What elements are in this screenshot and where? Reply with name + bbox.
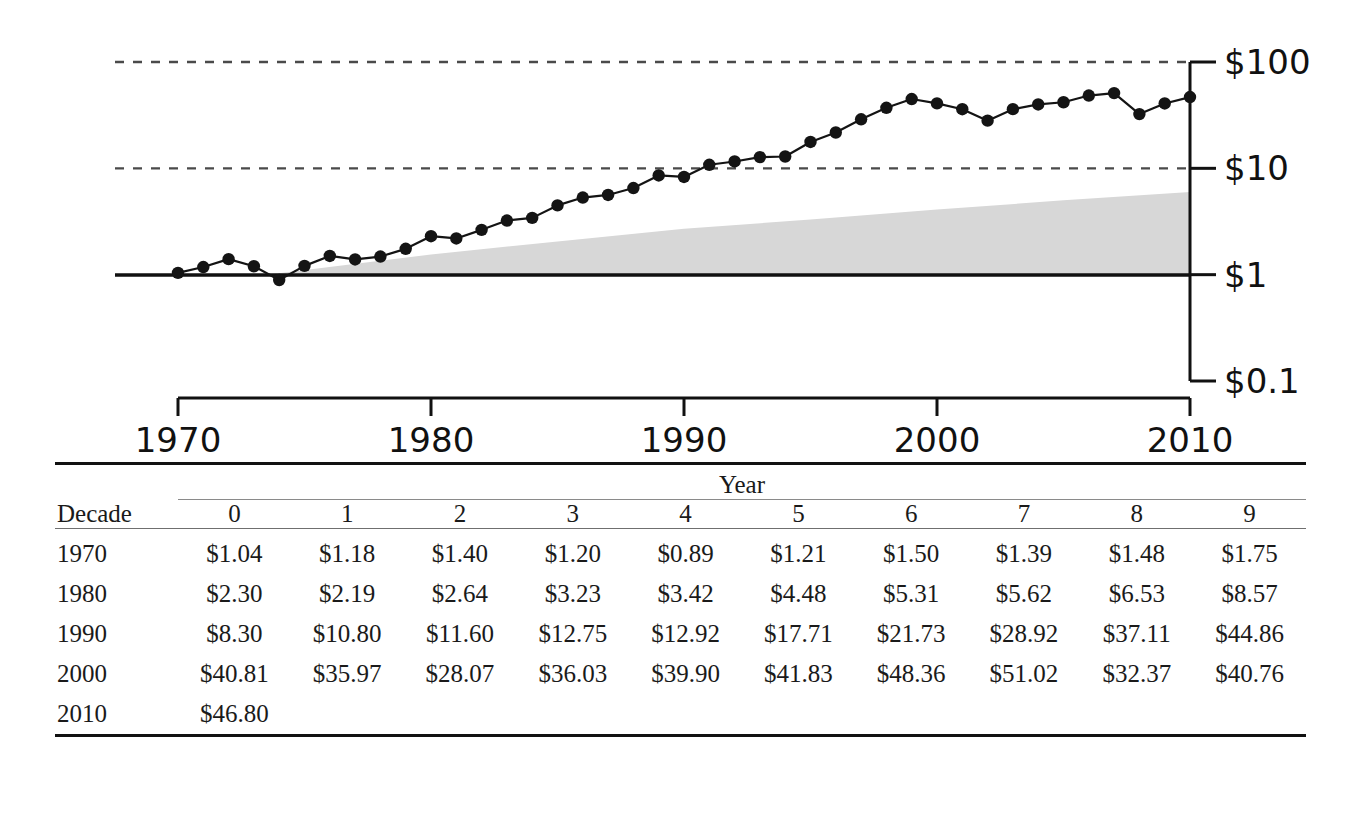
data-point — [400, 243, 412, 255]
decade-cell: 1980 — [55, 574, 178, 614]
price-cell: $39.90 — [629, 654, 742, 694]
shaded-band-area — [267, 192, 1190, 275]
column-header-year-7: 7 — [968, 500, 1081, 529]
data-point — [501, 214, 513, 226]
column-header-year-3: 3 — [516, 500, 629, 529]
y-tick-label-2: $1 — [1224, 255, 1267, 295]
data-point — [653, 169, 665, 181]
data-point — [273, 274, 285, 286]
data-point — [1007, 103, 1019, 115]
column-header-year-2: 2 — [404, 500, 517, 529]
price-cell: $1.18 — [291, 534, 404, 574]
decade-cell: 2010 — [55, 694, 178, 736]
column-header-year-9: 9 — [1193, 500, 1306, 529]
price-cell: $17.71 — [742, 614, 855, 654]
x-tick-label-2: 1990 — [641, 420, 728, 460]
y-tick-label-group: $100$10$1$0.1 — [1224, 42, 1311, 401]
column-header-year-8: 8 — [1080, 500, 1193, 529]
price-cell — [855, 694, 968, 736]
price-cell — [968, 694, 1081, 736]
data-point — [981, 114, 993, 126]
price-cell: $32.37 — [1080, 654, 1193, 694]
price-cell: $46.80 — [178, 694, 291, 736]
table-column-header-row: Decade 0 1 2 3 4 5 6 7 8 9 — [55, 500, 1306, 529]
price-cell — [1193, 694, 1306, 736]
data-point — [754, 151, 766, 163]
price-cell: $1.39 — [968, 534, 1081, 574]
price-cell: $1.04 — [178, 534, 291, 574]
price-cell: $1.40 — [404, 534, 517, 574]
data-point — [425, 230, 437, 242]
price-cell: $4.48 — [742, 574, 855, 614]
price-cell: $12.75 — [516, 614, 629, 654]
price-cell: $2.30 — [178, 574, 291, 614]
data-point — [830, 126, 842, 138]
table-foot — [55, 736, 1306, 744]
price-cell: $8.30 — [178, 614, 291, 654]
table-body: 1970$1.04$1.18$1.40$1.20$0.89$1.21$1.50$… — [55, 534, 1306, 736]
price-cell: $37.11 — [1080, 614, 1193, 654]
price-cell: $10.80 — [291, 614, 404, 654]
data-point — [324, 250, 336, 262]
table-row: 1980$2.30$2.19$2.64$3.23$3.42$4.48$5.31$… — [55, 574, 1306, 614]
table-top-rule — [55, 464, 1306, 472]
data-point — [1108, 87, 1120, 99]
price-cell: $40.76 — [1193, 654, 1306, 694]
price-cell: $41.83 — [742, 654, 855, 694]
y-tick-label-0: $100 — [1224, 42, 1311, 82]
x-tick-label-1: 1980 — [388, 420, 475, 460]
price-cell: $6.53 — [1080, 574, 1193, 614]
data-point — [906, 93, 918, 105]
price-cell: $28.92 — [968, 614, 1081, 654]
data-point — [931, 97, 943, 109]
data-table-container: Year Decade 0 1 2 3 4 5 6 7 8 9 — [55, 462, 1306, 743]
price-cell: $5.62 — [968, 574, 1081, 614]
column-header-year-5: 5 — [742, 500, 855, 529]
price-cell — [404, 694, 517, 736]
data-point — [602, 189, 614, 201]
data-point — [779, 150, 791, 162]
line-chart: $100$10$1$0.1 19701980199020002010 — [0, 0, 1361, 462]
data-point — [577, 191, 589, 203]
x-tick-label-0: 1970 — [135, 420, 222, 460]
data-point — [703, 159, 715, 171]
data-point — [551, 199, 563, 211]
data-point — [526, 212, 538, 224]
figure-page: $100$10$1$0.1 19701980199020002010 — [0, 0, 1361, 814]
price-cell: $12.92 — [629, 614, 742, 654]
price-cell: $1.50 — [855, 534, 968, 574]
price-cell — [742, 694, 855, 736]
price-cell — [1080, 694, 1193, 736]
data-point — [298, 260, 310, 272]
price-cell: $2.19 — [291, 574, 404, 614]
data-point — [248, 260, 260, 272]
table-row: 2000$40.81$35.97$28.07$36.03$39.90$41.83… — [55, 654, 1306, 694]
x-tick-label-group: 19701980199020002010 — [135, 420, 1234, 460]
column-header-year-0: 0 — [178, 500, 291, 529]
column-header-year-1: 1 — [291, 500, 404, 529]
table-row: 2010$46.80 — [55, 694, 1306, 736]
price-cell: $3.23 — [516, 574, 629, 614]
y-tick-label-3: $0.1 — [1224, 361, 1300, 401]
price-cell: $36.03 — [516, 654, 629, 694]
data-point — [1032, 98, 1044, 110]
x-tick-label-3: 2000 — [894, 420, 981, 460]
price-cell — [516, 694, 629, 736]
price-cell — [629, 694, 742, 736]
price-by-decade-table: Year Decade 0 1 2 3 4 5 6 7 8 9 — [55, 462, 1306, 743]
data-point — [1083, 89, 1095, 101]
price-cell: $35.97 — [291, 654, 404, 694]
data-point — [804, 136, 816, 148]
decade-cell: 1970 — [55, 534, 178, 574]
data-point — [627, 182, 639, 194]
gridline-group — [115, 62, 1190, 168]
price-cell: $1.75 — [1193, 534, 1306, 574]
column-header-year-6: 6 — [855, 500, 968, 529]
data-point — [475, 224, 487, 236]
column-header-decade: Decade — [55, 500, 178, 529]
price-cell: $8.57 — [1193, 574, 1306, 614]
table-bottom-rule — [55, 736, 1306, 744]
table-head: Year Decade 0 1 2 3 4 5 6 7 8 9 — [55, 464, 1306, 535]
y-tick-label-1: $10 — [1224, 148, 1289, 188]
data-point — [728, 155, 740, 167]
